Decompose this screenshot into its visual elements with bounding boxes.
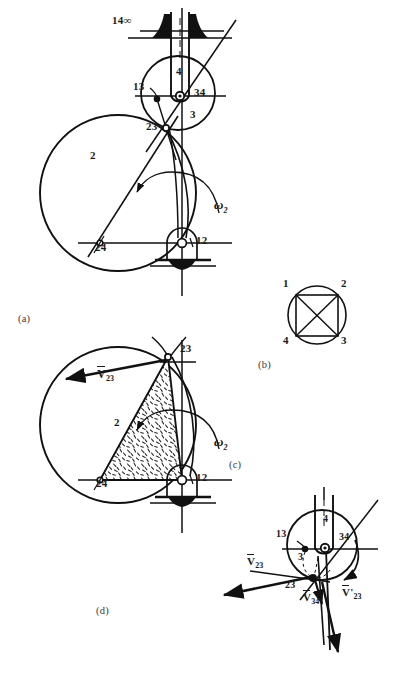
label-v23-d: V23 <box>97 367 114 383</box>
label-4-c: 4 <box>323 513 328 524</box>
label-23-d: 23 <box>180 342 191 354</box>
joint-34-center-c <box>323 546 326 549</box>
link-2-circle <box>40 115 196 271</box>
label-12-a: 12 <box>196 234 207 246</box>
line-14inf-a <box>146 20 236 152</box>
v34-sub-c: 34 <box>311 597 319 606</box>
omega-sub-a: 2 <box>224 206 228 215</box>
panel-b-group <box>288 286 346 344</box>
caption-b: (b) <box>258 359 271 370</box>
label-4-a: 4 <box>176 65 182 77</box>
joint-34-center-a <box>178 94 181 97</box>
caption-c: (c) <box>229 459 241 470</box>
label-3-c: 3 <box>298 551 303 562</box>
omega-sub-d: 2 <box>224 443 228 452</box>
v23p-sub-c: 23 <box>353 592 361 601</box>
label-v23-c: V23 <box>247 555 264 570</box>
omega-glyph-a: ω <box>214 197 224 212</box>
label-3-a: 3 <box>190 108 196 120</box>
label-34-a: 34 <box>194 86 205 98</box>
v-sub-c: 23 <box>255 561 263 570</box>
label-14-infinity-a: 14∞ <box>112 14 131 26</box>
label-24-a: 24 <box>95 241 106 253</box>
omega-glyph-d: ω <box>214 434 224 449</box>
label-node-3-b: 3 <box>341 334 347 346</box>
v-glyph-d: V <box>97 367 106 382</box>
construction-arc-1-c <box>303 552 313 578</box>
panel-d-group <box>40 337 232 533</box>
label-23-a: 23 <box>146 120 157 132</box>
label-node-4-b: 4 <box>283 334 289 346</box>
v23p-glyph-c: V <box>342 586 350 598</box>
label-13-a: 13 <box>133 80 144 92</box>
joint-23-d <box>165 354 171 360</box>
line-24-23-a <box>88 116 178 257</box>
caption-a: (a) <box>18 313 30 324</box>
label-node-2-b: 2 <box>341 277 347 289</box>
label-34-c: 34 <box>339 531 349 542</box>
joint-23-c <box>310 575 316 581</box>
v-sub-d: 23 <box>106 374 114 383</box>
label-node-1-b: 1 <box>283 277 289 289</box>
label-13-c: 13 <box>276 528 286 539</box>
label-23-c: 23 <box>285 579 295 590</box>
label-2-a: 2 <box>90 149 96 161</box>
label-v23-prime-c: V'23 <box>342 586 362 601</box>
label-12-d: 12 <box>196 471 207 483</box>
vector-v23-d <box>66 360 166 379</box>
vector-v23-c <box>224 577 311 595</box>
v34-glyph-c: V <box>303 591 311 603</box>
panel-a-group <box>40 8 236 296</box>
figure-sheet: 14∞ 13 34 4 3 23 2 24 12 ω2 1 2 3 4 23 V… <box>0 0 399 685</box>
label-omega-2-a: ω2 <box>214 197 228 215</box>
label-24-d: 24 <box>96 477 107 489</box>
label-v34-c: V34 <box>303 591 320 606</box>
joint-23-a <box>163 125 169 131</box>
label-omega-2-d: ω2 <box>214 434 228 452</box>
diagram-canvas <box>0 0 399 685</box>
caption-d: (d) <box>96 605 109 616</box>
v-glyph-c: V <box>247 555 255 567</box>
label-2-d: 2 <box>114 416 120 428</box>
